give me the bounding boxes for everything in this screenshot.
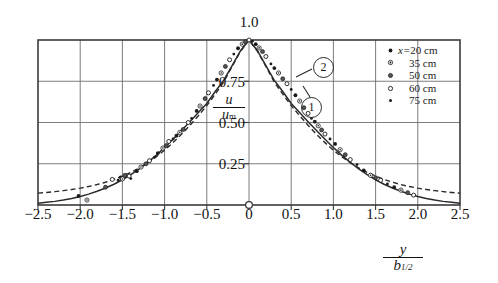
data-point — [379, 178, 383, 182]
data-point — [153, 156, 156, 159]
data-point — [175, 134, 179, 138]
data-point — [264, 55, 268, 59]
data-point-center — [241, 43, 243, 45]
data-point — [294, 93, 298, 97]
data-point — [281, 77, 285, 81]
legend-item: 60 cm — [386, 82, 438, 95]
data-point — [392, 185, 396, 189]
data-point — [206, 91, 210, 95]
data-point — [356, 163, 359, 166]
legend-marker-small-filled-dot-icon — [386, 96, 395, 105]
curve-callout-1: 1 — [301, 97, 322, 118]
data-point — [223, 64, 227, 68]
data-point-center — [317, 125, 319, 127]
x-tick-label: −0.5 — [193, 206, 220, 223]
data-point — [123, 173, 127, 177]
y-tick-label-025: 0.25 — [193, 156, 245, 173]
legend-label-value: 75 cm — [409, 94, 436, 106]
data-point-center — [162, 147, 164, 149]
data-point — [77, 194, 81, 198]
legend-item: 35 cm — [386, 57, 438, 70]
data-point — [272, 66, 276, 70]
jet-velocity-profile-chart — [0, 0, 498, 283]
x-axis-label-numerator: y — [383, 242, 423, 257]
data-point-center — [258, 47, 260, 49]
data-point — [406, 191, 410, 195]
data-point-center — [370, 175, 372, 177]
legend-label: 50 cm — [395, 69, 436, 82]
x-tick-label: −2.5 — [24, 206, 51, 223]
x-tick-label: −1.0 — [151, 206, 178, 223]
x-tick-label: −1.5 — [109, 206, 136, 223]
data-point — [144, 162, 148, 166]
data-point — [129, 177, 132, 180]
data-point — [203, 97, 207, 101]
data-point — [164, 144, 168, 148]
data-point — [343, 153, 347, 157]
data-point-center — [400, 189, 402, 191]
data-point — [247, 38, 251, 42]
data-point — [412, 193, 416, 197]
legend-label-value: 35 cm — [409, 57, 436, 69]
legend-label: 75 cm — [395, 94, 436, 107]
legend-label-value: 60 cm — [409, 82, 436, 94]
data-point-center — [199, 105, 201, 107]
data-point — [236, 46, 240, 50]
data-point — [186, 121, 190, 125]
data-point — [172, 138, 175, 141]
data-point — [135, 169, 139, 173]
y-axis-label: u um — [213, 93, 245, 122]
data-point — [156, 151, 160, 155]
data-point — [251, 40, 254, 43]
data-point — [285, 82, 289, 86]
legend-label-value: 50 cm — [409, 69, 436, 81]
legend-item: 50 cm — [386, 69, 438, 82]
data-point — [270, 63, 273, 66]
legend-item: 75 cm — [386, 94, 438, 107]
data-point-center — [140, 166, 142, 168]
curve-callout-2: 2 — [313, 57, 334, 78]
legend-label-value: 20 cm — [410, 44, 437, 56]
x-tick-label: 2.5 — [451, 206, 470, 223]
data-point — [167, 139, 171, 143]
data-point-center — [278, 72, 280, 74]
data-point-center — [122, 178, 124, 180]
data-point — [329, 138, 332, 141]
data-point — [348, 158, 352, 162]
data-point — [117, 179, 120, 182]
data-point — [228, 58, 232, 62]
data-point-center — [86, 199, 88, 201]
data-point — [290, 88, 293, 91]
data-point — [181, 127, 185, 131]
data-point — [195, 109, 199, 113]
y-axis-label-numerator: u — [213, 93, 245, 107]
data-point — [386, 182, 389, 185]
legend-marker-filled-dot-icon — [386, 46, 395, 55]
x-axis-label-denominator: b1/2 — [383, 257, 423, 273]
data-point — [313, 120, 317, 124]
legend: x=20 cm35 cm50 cm60 cm75 cm — [386, 44, 438, 107]
legend-label-prefix: x= — [398, 44, 410, 56]
data-point — [323, 132, 327, 136]
data-point — [232, 53, 235, 56]
data-point-center — [339, 149, 341, 151]
data-point — [320, 128, 324, 132]
data-point — [110, 177, 114, 181]
x-tick-label: 2.0 — [408, 206, 427, 223]
y-tick-label-075: 0.75 — [193, 74, 245, 91]
x-axis-label: y b1/2 — [383, 242, 423, 273]
data-point — [147, 159, 151, 163]
data-point — [362, 168, 366, 172]
data-point-center — [179, 132, 181, 134]
x-tick-label: 1.5 — [366, 206, 385, 223]
data-point — [333, 142, 337, 146]
legend-label: x=20 cm — [395, 44, 438, 57]
x-tick-label: 1.0 — [324, 206, 343, 223]
legend-marker-half-filled-circle-icon — [386, 71, 395, 80]
data-point — [374, 176, 378, 180]
legend-marker-open-circle-icon — [386, 84, 395, 93]
y-axis-label-denominator: um — [213, 107, 245, 122]
data-point — [104, 185, 108, 189]
y-axis-peak-label: 1.0 — [240, 14, 259, 31]
data-point-center — [299, 100, 301, 102]
